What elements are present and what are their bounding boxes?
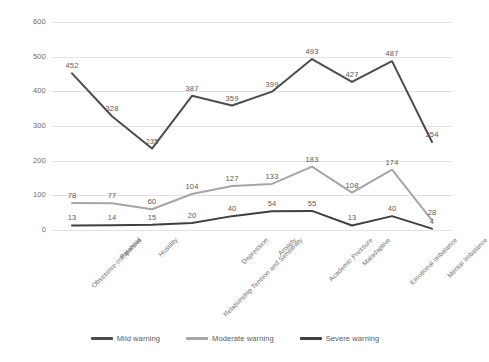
- data-point-label: 15: [148, 213, 157, 222]
- y-axis-tick-label: 200: [12, 156, 46, 165]
- plot-area: 4523282353873593994934274872547877601041…: [52, 22, 452, 230]
- data-point-label: 399: [266, 80, 279, 89]
- data-point-label: 104: [186, 182, 199, 191]
- legend-line-icon: [300, 337, 322, 339]
- series-line: [72, 59, 432, 148]
- data-point-label: 14: [108, 213, 117, 222]
- data-point-label: 493: [306, 47, 319, 56]
- data-point-label: 183: [306, 155, 319, 164]
- chart-legend: Mild warningModerate warningSevere warni…: [0, 334, 470, 343]
- series-line: [72, 211, 432, 229]
- data-point-label: 487: [386, 49, 399, 58]
- y-axis-tick-label: 400: [12, 86, 46, 95]
- y-axis-tick-label: 500: [12, 52, 46, 61]
- data-point-label: 127: [226, 174, 239, 183]
- x-axis-label: Relationship Tension and Sensitivity: [222, 236, 304, 318]
- x-axis-labels: Obsessive-compulsiveParanoidHostilityRel…: [52, 232, 452, 324]
- gridline: [52, 230, 452, 231]
- data-point-label: 13: [68, 213, 77, 222]
- x-axis-label: Depression: [240, 236, 269, 265]
- data-point-label: 54: [268, 199, 277, 208]
- data-point-label: 55: [308, 199, 317, 208]
- data-point-label: 20: [188, 211, 197, 220]
- legend-label: Moderate warning: [212, 334, 274, 343]
- data-point-label: 174: [386, 158, 399, 167]
- data-point-label: 254: [426, 130, 439, 139]
- legend-line-icon: [91, 337, 113, 339]
- data-point-label: 4: [430, 217, 434, 226]
- data-point-label: 133: [266, 172, 279, 181]
- data-point-label: 452: [66, 61, 79, 70]
- data-point-label: 108: [346, 181, 359, 190]
- legend-item[interactable]: Moderate warning: [186, 334, 274, 343]
- legend-item[interactable]: Mild warning: [91, 334, 160, 343]
- legend-label: Severe warning: [326, 334, 380, 343]
- data-point-label: 78: [68, 191, 77, 200]
- data-point-label: 40: [228, 204, 237, 213]
- data-point-label: 359: [226, 94, 239, 103]
- y-axis-tick-label: 100: [12, 190, 46, 199]
- x-axis-label: Hostility: [157, 236, 179, 258]
- y-axis-tick-label: 0: [12, 225, 46, 234]
- legend-label: Mild warning: [117, 334, 160, 343]
- data-point-label: 328: [106, 104, 119, 113]
- data-point-label: 427: [346, 70, 359, 79]
- data-point-label: 60: [148, 197, 157, 206]
- data-point-label: 77: [108, 191, 117, 200]
- series-line: [72, 167, 432, 221]
- data-point-label: 235: [146, 137, 159, 146]
- y-axis-tick-label: 600: [12, 17, 46, 26]
- legend-item[interactable]: Severe warning: [300, 334, 380, 343]
- data-point-label: 40: [388, 204, 397, 213]
- y-axis-tick-label: 300: [12, 121, 46, 130]
- legend-line-icon: [186, 337, 208, 339]
- data-point-label: 13: [348, 213, 357, 222]
- x-axis-label: Paranoid: [118, 236, 142, 260]
- data-point-label: 387: [186, 84, 199, 93]
